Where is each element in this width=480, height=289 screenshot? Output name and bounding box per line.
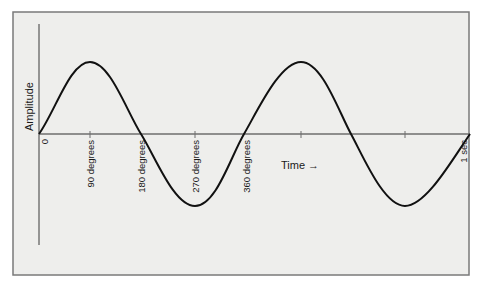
tick-label-180: 180 degrees <box>136 140 147 193</box>
tick-label-0: 0 <box>39 139 50 144</box>
tick-label-270: 270 degrees <box>190 140 201 193</box>
tick-label-90: 90 degrees <box>85 140 96 188</box>
y-axis-label: Amplitude <box>23 82 35 131</box>
tick-label-360: 360 degrees <box>241 140 252 193</box>
x-axis-label: Time → <box>281 159 319 171</box>
sine-wave-diagram: Amplitude 0 90 degrees 180 degrees 270 d… <box>0 0 480 289</box>
tick-label-end: 1 sec <box>458 140 469 163</box>
sine-wave-figure: Amplitude 0 90 degrees 180 degrees 270 d… <box>0 0 480 289</box>
